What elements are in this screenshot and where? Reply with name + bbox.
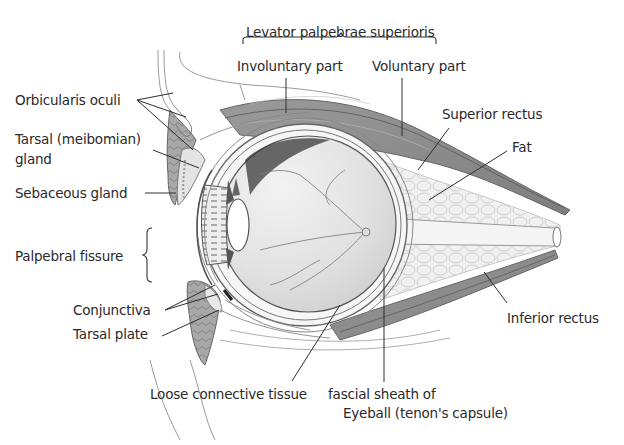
label-involuntary-part: Involuntary part bbox=[237, 58, 343, 74]
label-levator-palpebrae-superioris: Levator palpebrae superioris bbox=[246, 24, 434, 40]
upper-eyelid bbox=[167, 108, 205, 205]
lower-eyelid bbox=[187, 281, 232, 365]
label-orbicularis-oculi: Orbicularis oculi bbox=[15, 92, 120, 108]
anterior-chamber bbox=[201, 185, 230, 265]
label-conjunctiva: Conjunctiva bbox=[73, 302, 151, 318]
label-voluntary-part: Voluntary part bbox=[372, 58, 466, 74]
palpebral-bracket bbox=[143, 228, 152, 282]
label-sebaceous-gland: Sebaceous gland bbox=[15, 185, 127, 201]
label-inferior-rectus: Inferior rectus bbox=[507, 310, 599, 326]
label-loose-connective-tissue: Loose connective tissue bbox=[150, 386, 307, 402]
label-fat: Fat bbox=[512, 139, 532, 155]
label-fascial-sheath-line2: Eyeball (tenon's capsule) bbox=[343, 405, 508, 421]
label-fascial-sheath-line1: fascial sheath of bbox=[328, 386, 435, 402]
label-palpebral-fissure: Palpebral fissure bbox=[15, 248, 123, 264]
label-tarsal-gland-line1: Tarsal (meibomian) bbox=[15, 131, 141, 147]
label-superior-rectus: Superior rectus bbox=[442, 106, 542, 122]
label-tarsal-gland-line2: gland bbox=[15, 151, 52, 167]
lens bbox=[227, 199, 249, 251]
label-tarsal-plate: Tarsal plate bbox=[73, 326, 148, 342]
eye-anatomy-diagram: Levator palpebrae superioris Involuntary… bbox=[0, 0, 624, 445]
